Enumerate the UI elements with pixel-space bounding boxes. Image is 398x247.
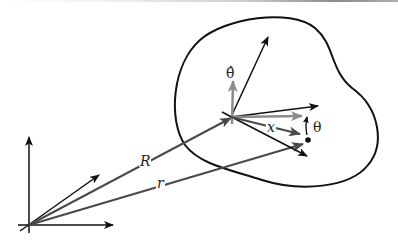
R-vector: [29, 118, 231, 225]
theta-angle-arrow: [306, 117, 307, 135]
r-vector: [29, 144, 303, 225]
x-vector: [231, 117, 300, 134]
x-label: x: [267, 119, 275, 135]
R-label: R: [139, 153, 151, 169]
theta-label: θ: [313, 119, 321, 135]
fixed-frame-axes: [18, 137, 113, 233]
theta-hat-label: θ̂: [226, 65, 234, 81]
radial-unit-vector: [231, 116, 302, 117]
body-frame-axes: [222, 37, 318, 156]
body-outline: [175, 17, 378, 186]
diagram-canvas: R r θ̂ x θ: [0, 0, 398, 247]
point-mass: [305, 137, 311, 143]
